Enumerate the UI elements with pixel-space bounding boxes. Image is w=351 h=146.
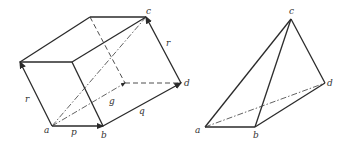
label-r-left: r [25, 94, 30, 104]
edge-ac [205, 19, 291, 127]
label-q: q [139, 106, 145, 116]
edge-cd [291, 19, 325, 83]
label-c: c [289, 6, 294, 16]
label-b: b [101, 130, 107, 140]
label-a: a [44, 125, 49, 135]
label-d: d [327, 78, 333, 88]
label-r-right: r [166, 38, 171, 48]
label-g: g [109, 96, 115, 106]
parallelepiped-figure: a b c d p q r r g [20, 6, 190, 140]
label-a: a [195, 125, 200, 135]
edge [72, 17, 146, 62]
edge [20, 17, 90, 62]
label-b: b [253, 130, 259, 140]
edge-bd [255, 83, 325, 127]
tetrahedron-figure: a b c d [195, 6, 333, 140]
label-c: c [146, 6, 151, 16]
diagram-canvas: a b c d p q r r g a b c d [0, 0, 351, 146]
edge-bc [255, 19, 291, 127]
vector-r-right [146, 17, 181, 83]
label-p: p [71, 127, 77, 137]
label-d: d [184, 78, 190, 88]
edge [72, 62, 103, 126]
hidden-edge [90, 17, 125, 83]
